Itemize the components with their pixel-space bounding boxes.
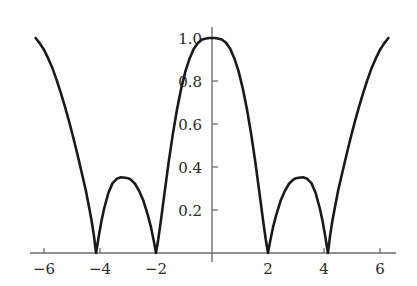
- x-tick-label: −6: [33, 260, 55, 278]
- y-tick-label: 0.2: [178, 202, 202, 220]
- x-tick-label: 2: [263, 260, 273, 278]
- x-tick-label: −2: [145, 260, 167, 278]
- y-tick-label: 1.0: [178, 30, 202, 48]
- line-chart: −6−4−2246 0.20.40.60.81.0: [0, 0, 417, 286]
- x-tick-label: 6: [375, 260, 385, 278]
- y-tick-label: 0.4: [178, 159, 202, 177]
- chart-background: [0, 0, 417, 286]
- x-tick-label: 4: [319, 260, 329, 278]
- figure-container: −6−4−2246 0.20.40.60.81.0: [0, 0, 417, 286]
- y-tick-label: 0.6: [178, 116, 202, 134]
- x-tick-label: −4: [89, 260, 111, 278]
